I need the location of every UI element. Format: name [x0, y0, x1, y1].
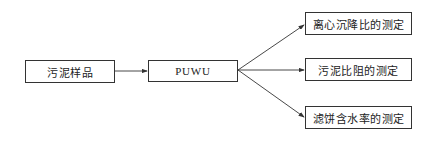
node-sample: 污泥样品 — [25, 60, 115, 83]
node-moisture: 滤饼含水率的测定 — [305, 106, 412, 129]
node-puwu: PUWU — [148, 60, 238, 82]
arrow-puwu-to-centrifugal — [238, 25, 304, 70]
node-sample-label: 污泥样品 — [47, 64, 93, 80]
node-moisture-label: 滤饼含水率的测定 — [313, 110, 405, 126]
node-resistance-label: 污泥比阻的测定 — [318, 62, 399, 78]
node-resistance: 污泥比阻的测定 — [305, 58, 412, 81]
node-centrifugal: 离心沉降比的测定 — [305, 12, 412, 35]
arrow-puwu-to-moisture — [238, 70, 304, 117]
node-puwu-label: PUWU — [175, 65, 211, 77]
node-centrifugal-label: 离心沉降比的测定 — [313, 16, 405, 32]
